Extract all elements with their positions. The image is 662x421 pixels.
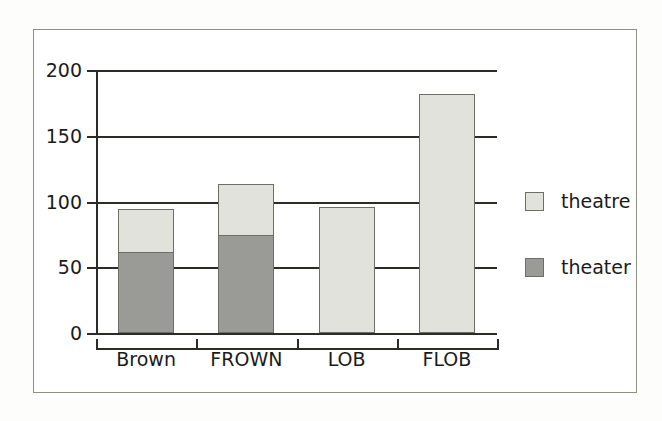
bar-group-lob[interactable] xyxy=(319,207,375,333)
y-tick-mark xyxy=(87,333,96,335)
bar-segment-theater-brown[interactable] xyxy=(118,253,174,333)
y-tick-label: 50 xyxy=(58,258,82,277)
y-tick-label: 200 xyxy=(46,61,82,80)
bar-segment-theatre-brown[interactable] xyxy=(118,209,174,252)
y-tick-mark xyxy=(87,202,96,204)
x-tick-mark xyxy=(96,339,98,350)
bar-group-brown[interactable] xyxy=(118,209,174,333)
y-tick-mark xyxy=(87,267,96,269)
legend-swatch-icon xyxy=(525,258,544,277)
gridline-200 xyxy=(96,70,497,72)
x-tick-mark xyxy=(397,339,399,350)
x-category-label-flob: FLOB xyxy=(422,350,471,369)
chart-legend: theatretheater xyxy=(525,190,631,322)
legend-item-theatre[interactable]: theatre xyxy=(525,190,631,212)
x-category-label-lob: LOB xyxy=(328,350,366,369)
bar-group-frown[interactable] xyxy=(218,184,274,333)
bar-group-flob[interactable] xyxy=(419,94,475,333)
y-tick-label: 100 xyxy=(46,192,82,211)
bar-segment-theatre-frown[interactable] xyxy=(218,184,274,235)
x-category-label-frown: FROWN xyxy=(210,350,282,369)
bar-segment-theatre-lob[interactable] xyxy=(319,207,375,333)
y-tick-mark xyxy=(87,70,96,72)
chart-figure: 050100150200 BrownFROWNLOBFLOB theatreth… xyxy=(0,0,662,421)
x-tick-mark xyxy=(196,339,198,350)
gridline-0 xyxy=(96,333,497,335)
y-tick-label: 150 xyxy=(46,126,82,145)
y-tick-mark xyxy=(87,136,96,138)
x-tick-mark xyxy=(297,339,299,350)
legend-item-theater[interactable]: theater xyxy=(525,256,631,278)
x-tick-mark xyxy=(497,339,499,350)
legend-label: theatre xyxy=(561,192,630,211)
bar-segment-theater-frown[interactable] xyxy=(218,236,274,333)
y-tick-label: 0 xyxy=(70,324,82,343)
legend-swatch-icon xyxy=(525,192,544,211)
x-category-label-brown: Brown xyxy=(116,350,176,369)
plot-area: 050100150200 xyxy=(96,70,497,333)
bar-segment-theatre-flob[interactable] xyxy=(419,94,475,333)
legend-label: theater xyxy=(561,258,631,277)
